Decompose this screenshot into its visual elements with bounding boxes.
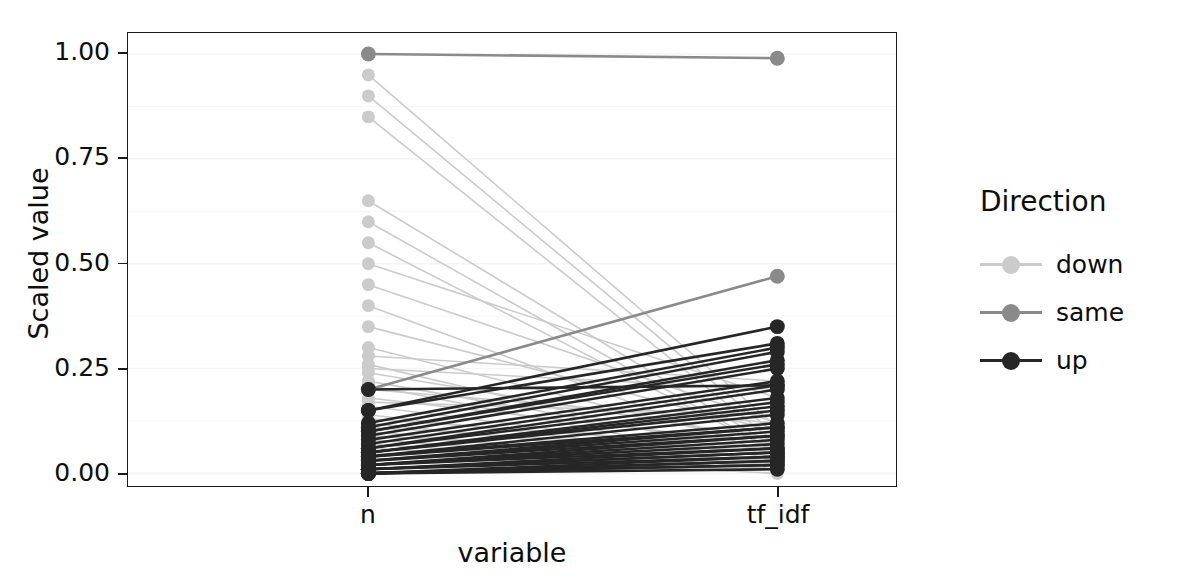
data-point (362, 215, 375, 228)
x-axis-tick-label: n (360, 500, 376, 529)
slopegraph-svg (128, 33, 896, 486)
data-point (362, 89, 375, 102)
y-axis-tick-label: 0.75 (54, 144, 110, 169)
legend-key-dot (1002, 256, 1020, 274)
legend-label: same (1056, 298, 1124, 327)
legend-title: Direction (980, 185, 1180, 218)
data-point (362, 320, 375, 333)
data-point (361, 47, 376, 62)
legend-key-dot (1002, 304, 1020, 322)
data-point (362, 68, 375, 81)
legend-item-same[interactable]: same (980, 288, 1180, 336)
data-point (361, 466, 376, 481)
y-axis-tick-mark (118, 52, 127, 54)
data-point (361, 382, 376, 397)
y-axis-tick-label: 0.00 (54, 460, 110, 485)
y-axis-tick-label: 1.00 (54, 39, 110, 64)
data-point (362, 257, 375, 270)
legend-key-icon (980, 249, 1042, 279)
legend-key-icon (980, 297, 1042, 327)
y-axis-tick-mark (118, 368, 127, 370)
slope-line (368, 276, 777, 389)
y-axis-title: Scaled value (23, 44, 54, 464)
data-point (362, 278, 375, 291)
legend-label: up (1056, 346, 1088, 375)
legend-item-down[interactable]: down (980, 240, 1180, 288)
legend: Direction downsameup (980, 185, 1180, 384)
x-axis-title: variable (127, 537, 897, 568)
y-axis-tick-label: 0.25 (54, 355, 110, 380)
y-axis-tick-mark (118, 473, 127, 475)
data-point (362, 194, 375, 207)
data-point (770, 269, 785, 284)
x-axis-tick-mark (777, 487, 779, 497)
legend-key-icon (980, 345, 1042, 375)
data-point (770, 51, 785, 66)
legend-item-up[interactable]: up (980, 336, 1180, 384)
y-axis-tick-mark (118, 263, 127, 265)
plot-area (127, 32, 897, 487)
legend-label: down (1056, 250, 1123, 279)
x-axis-tick-label: tf_idf (747, 500, 810, 529)
data-point (362, 110, 375, 123)
y-axis-tick-mark (118, 157, 127, 159)
legend-items: downsameup (980, 240, 1180, 384)
y-axis-tick-labels: 0.000.250.500.751.00 (0, 0, 110, 580)
data-point (770, 462, 785, 477)
chart-root: 0.000.250.500.751.00 Scaled value ntf_id… (0, 0, 1203, 580)
data-point (362, 236, 375, 249)
legend-key-dot (1002, 352, 1020, 370)
data-point (770, 319, 785, 334)
y-axis-tick-label: 0.50 (54, 250, 110, 275)
data-point (362, 299, 375, 312)
x-axis-tick-mark (367, 487, 369, 497)
